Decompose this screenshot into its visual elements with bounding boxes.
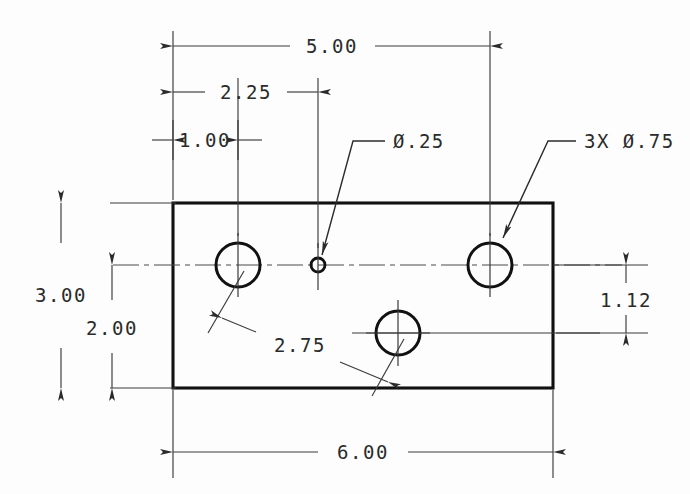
dimension-label-2-00: 2.00 <box>86 317 138 339</box>
note-label-diameter-large: 3X Ø.75 <box>584 130 675 152</box>
dimension-3-00: 3.00 <box>35 203 87 388</box>
dimension-label-1-12: 1.12 <box>600 289 652 311</box>
note-label-diameter-small: Ø.25 <box>393 130 445 152</box>
drawing-svg: 5.00 2.25 1.00 Ø.25 3X Ø.75 <box>0 0 690 494</box>
dimension-2-25: 2.25 <box>173 81 318 103</box>
dimension-label-6-00: 6.00 <box>337 441 389 463</box>
engineering-drawing-canvas: 5.00 2.25 1.00 Ø.25 3X Ø.75 <box>0 0 690 494</box>
leader-diameter-small: Ø.25 <box>322 130 445 255</box>
dimension-1-00: 1.00 <box>152 120 262 160</box>
extension-lines-bottom <box>173 390 553 478</box>
dimension-label-3-00: 3.00 <box>35 284 87 306</box>
dimension-1-12: 1.12 <box>600 265 652 333</box>
dimension-2-00: 2.00 <box>86 265 138 388</box>
dimension-5-00: 5.00 <box>173 35 490 57</box>
dimension-label-1-00: 1.00 <box>179 129 231 151</box>
dimension-label-2-25: 2.25 <box>220 81 272 103</box>
dimension-label-5-00: 5.00 <box>306 35 358 57</box>
extension-lines-left <box>110 203 176 388</box>
leader-diameter-large: 3X Ø.75 <box>503 130 675 238</box>
dimension-6-00: 6.00 <box>173 441 553 463</box>
dimension-label-2-75: 2.75 <box>274 334 326 356</box>
hole-bottom <box>366 300 430 366</box>
